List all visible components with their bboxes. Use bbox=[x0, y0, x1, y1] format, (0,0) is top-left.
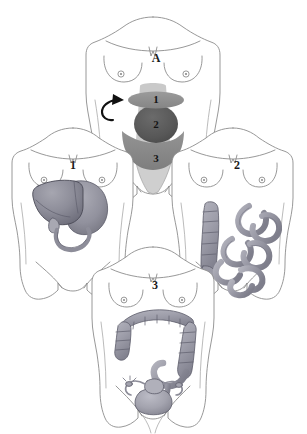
figure-root: Abdominal organ regions of the female to… bbox=[0, 0, 307, 434]
nipple-left-2 bbox=[201, 177, 207, 183]
panel-lower-abdomen: 3 bbox=[92, 247, 214, 433]
ovary-left-3 bbox=[126, 382, 133, 387]
nipple-right-a bbox=[183, 71, 189, 77]
nipple-left-1 bbox=[41, 177, 47, 183]
panel-label-a: A bbox=[152, 51, 161, 65]
uterus-organ-3 bbox=[145, 379, 164, 394]
nipple-left-a bbox=[118, 71, 124, 77]
ovary-right-3 bbox=[176, 383, 183, 388]
region-label-1: 1 bbox=[153, 93, 159, 105]
panel-label-2: 2 bbox=[234, 158, 240, 172]
nipple-left-3 bbox=[121, 297, 127, 303]
region-label-3: 3 bbox=[153, 152, 159, 164]
organ-regions-figure: Abdominal organ regions of the female to… bbox=[0, 0, 307, 434]
region-label-2: 2 bbox=[153, 118, 159, 130]
nipple-right-1 bbox=[99, 177, 105, 183]
panel-label-1: 1 bbox=[70, 158, 76, 172]
nipple-right-2 bbox=[259, 177, 265, 183]
panel-label-3: 3 bbox=[152, 278, 158, 292]
nipple-right-3 bbox=[179, 297, 185, 303]
